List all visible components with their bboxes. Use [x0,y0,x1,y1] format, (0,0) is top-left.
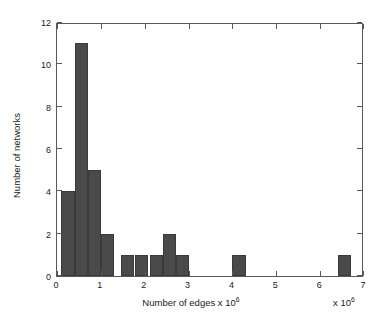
x-axis-tick [276,24,277,29]
x-axis-tick [189,24,190,29]
bars-layer [57,24,362,276]
x-axis-tick [57,24,58,29]
x-axis-tick [101,271,102,276]
histogram-bar [232,255,245,276]
plot-area [56,23,363,277]
y-axis-tick [357,275,362,276]
histogram-bar [176,255,189,276]
x-axis-tick [232,271,233,276]
x-axis-tick [276,271,277,276]
x-tick-label: 7 [360,280,365,290]
x-axis-tick [145,271,146,276]
x-axis-tick [101,24,102,29]
histogram-bar [88,170,101,276]
histogram-figure: 01234567 024681012 Number of edges x 106… [0,0,382,327]
y-axis-title: Number of networks [11,96,22,216]
x-axis-tick [232,24,233,29]
histogram-bar [163,234,176,276]
y-axis-tick [57,106,62,107]
x-axis-tick [320,271,321,276]
x-axis-tick [145,24,146,29]
y-axis-tick [57,22,62,23]
x-axis-tick [363,271,364,276]
y-axis-tick [57,148,62,149]
x-axis-title: Number of edges x 106 [0,296,382,308]
y-axis-tick [57,190,62,191]
x-tick-label: 0 [53,280,58,290]
y-axis-tick [357,106,362,107]
histogram-bar [75,43,88,276]
x-axis-exponent-annotation: x 106 [333,296,355,308]
histogram-bar [338,255,351,276]
y-axis-tick [57,275,62,276]
x-axis-tick [363,24,364,29]
x-axis-tick [320,24,321,29]
x-axis-tick [189,271,190,276]
x-tick-label: 6 [317,280,322,290]
y-axis-tick [357,148,362,149]
histogram-bar [101,234,114,276]
y-axis-tick [357,22,362,23]
y-axis-tick [357,63,362,64]
y-axis-tick [57,63,62,64]
x-tick-label: 1 [97,280,102,290]
histogram-bar [121,255,134,276]
histogram-bar [61,191,74,276]
y-axis-tick [57,233,62,234]
x-tick-label: 3 [185,280,190,290]
x-tick-label: 5 [273,280,278,290]
x-tick-label: 4 [229,280,234,290]
y-axis-tick [357,233,362,234]
histogram-bar [135,255,148,276]
histogram-bar [150,255,163,276]
y-axis-tick [357,190,362,191]
x-tick-label: 2 [141,280,146,290]
